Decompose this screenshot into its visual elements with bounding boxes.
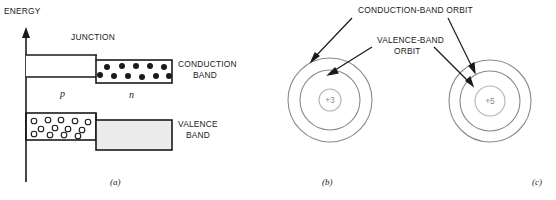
figure-root: ENERGY JUNCTION p n CONDUCTION BAND VALE… (0, 0, 556, 200)
conduction-band-label-line2: BAND (193, 70, 217, 81)
junction-label: JUNCTION (71, 32, 115, 43)
conduction-band-n-box (96, 60, 172, 83)
valence-band-label-line1: VALENCE (178, 119, 218, 130)
conduction-band-orbit-annotation: CONDUCTION-BAND ORBIT (358, 5, 473, 16)
arrow-valence-orbit-b (328, 47, 372, 75)
caption-panel-b: (b) (322, 177, 333, 187)
valence-band-label-line2: BAND (186, 130, 210, 141)
figure-vector-layer (0, 0, 556, 200)
caption-panel-a: (a) (110, 177, 121, 187)
energy-axis-label: ENERGY (4, 6, 41, 17)
conduction-band-label-line1: CONDUCTION (178, 59, 237, 70)
valence-band-orbit-annotation-line2: ORBIT (394, 46, 421, 57)
p-region-label: p (60, 88, 65, 99)
panel-a-graphics (22, 27, 172, 182)
nucleus-charge-c: +5 (480, 96, 500, 106)
n-region-label: n (129, 89, 134, 100)
annotation-arrows (311, 18, 475, 86)
valence-band-n-box (96, 120, 172, 150)
valence-band-orbit-annotation-line1: VALENCE-BAND (377, 35, 444, 46)
energy-axis-arrow (22, 27, 30, 182)
caption-panel-c: (c) (532, 177, 542, 187)
nucleus-charge-b: +3 (320, 95, 340, 105)
conduction-band-p-box (26, 55, 97, 77)
arrow-conduction-orbit-b (311, 18, 352, 62)
